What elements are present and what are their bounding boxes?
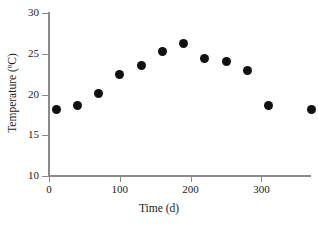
y-axis-tick-label: 30: [13, 7, 39, 18]
y-axis-line: [48, 12, 50, 177]
x-axis-tick: [49, 177, 50, 182]
x-axis-tick-label: 100: [100, 184, 140, 195]
x-axis-tick: [191, 177, 192, 182]
data-point: [222, 57, 231, 66]
y-axis-tick: [42, 135, 48, 136]
y-axis-title: Temperature (ºC): [6, 28, 18, 158]
x-axis-title: Time (d): [0, 202, 318, 214]
x-axis-tick: [120, 177, 121, 182]
y-axis-tick: [42, 54, 48, 55]
y-axis-tick: [42, 176, 48, 177]
data-point: [158, 47, 167, 56]
plot-area: [49, 13, 311, 176]
y-axis-tick: [42, 95, 48, 96]
x-axis-tick-label: 300: [241, 184, 281, 195]
y-axis-tick: [42, 13, 48, 14]
x-axis-tick-label: 0: [29, 184, 69, 195]
data-point: [307, 105, 316, 114]
scatter-chart-figure: 1015202530 0100200300 Time (d) Temperatu…: [0, 0, 318, 228]
y-axis-tick-label: 10: [13, 170, 39, 181]
x-axis-tick: [261, 177, 262, 182]
data-point: [52, 105, 61, 114]
x-axis-tick-label: 200: [171, 184, 211, 195]
x-axis-line: [48, 175, 311, 177]
